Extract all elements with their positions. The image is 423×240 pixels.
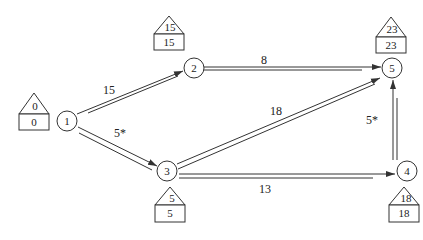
edge-3-5 xyxy=(177,78,380,169)
node-2-label: 2 xyxy=(184,63,204,74)
node-1-label: 1 xyxy=(57,116,77,127)
edge-1-2 xyxy=(77,71,183,114)
node-2-late-time: 15 xyxy=(154,37,184,48)
edge-4-5 xyxy=(393,80,397,160)
node-5-late-time: 23 xyxy=(376,40,406,51)
node-5-label: 5 xyxy=(382,63,402,74)
edge-2-5-label: 8 xyxy=(261,54,267,66)
edge-3-5-label: 18 xyxy=(270,105,282,117)
edge-3-4-label: 13 xyxy=(259,183,271,195)
edge-1-3-label: 5* xyxy=(114,127,126,139)
node-3-late-time: 5 xyxy=(155,208,185,219)
edge-2-5 xyxy=(188,67,381,70)
node-4-label: 4 xyxy=(397,166,417,177)
node-1-early-time: 0 xyxy=(20,101,50,112)
edge-1-2-label: 15 xyxy=(103,84,115,96)
edge-4-5-label: 5* xyxy=(366,114,378,126)
node-1-late-time: 0 xyxy=(19,117,49,128)
node-5-early-time: 23 xyxy=(377,24,407,35)
node-4-early-time: 18 xyxy=(391,193,421,204)
node-3-early-time: 5 xyxy=(157,193,187,204)
node-2-early-time: 15 xyxy=(155,22,185,33)
edge-3-4 xyxy=(179,174,395,178)
node-4-late-time: 18 xyxy=(389,208,419,219)
node-3-label: 3 xyxy=(157,166,177,177)
